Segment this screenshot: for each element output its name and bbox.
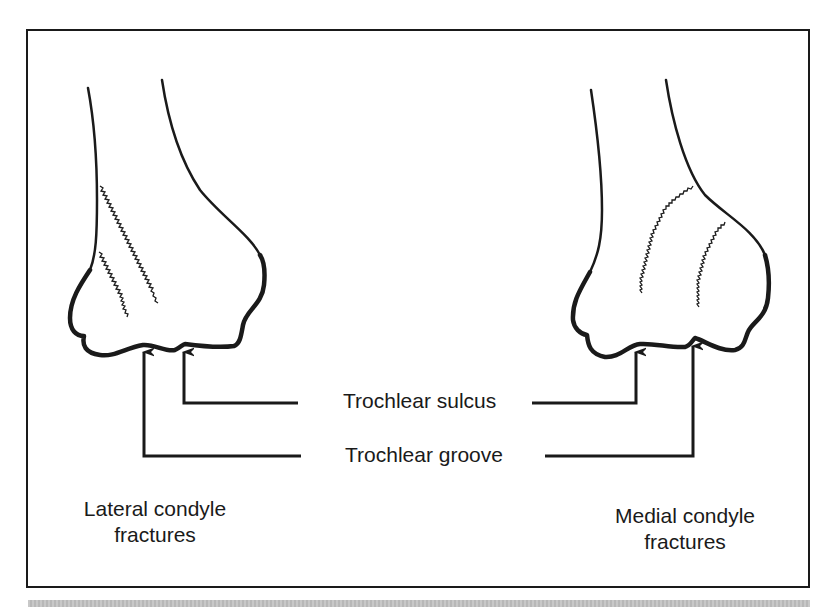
right-fracture-lines (640, 186, 725, 307)
caption-line-1: Medial condyle (590, 503, 780, 529)
caption-line-2: fractures (60, 522, 250, 548)
left-humerus-outline (70, 80, 265, 355)
trochlear-groove-label: Trochlear groove (345, 442, 503, 468)
caption-line-2: fractures (590, 529, 780, 555)
right-humerus-outline (573, 80, 769, 357)
caption-line-1: Lateral condyle (60, 496, 250, 522)
medial-condyle-caption: Medial condyle fractures (590, 503, 780, 555)
left-sulcus-leader (184, 352, 298, 403)
right-groove-leader (545, 346, 693, 456)
trochlear-sulcus-label: Trochlear sulcus (343, 388, 496, 414)
lateral-condyle-caption: Lateral condyle fractures (60, 496, 250, 548)
left-fracture-lines (99, 186, 158, 317)
right-sulcus-leader (532, 352, 636, 403)
